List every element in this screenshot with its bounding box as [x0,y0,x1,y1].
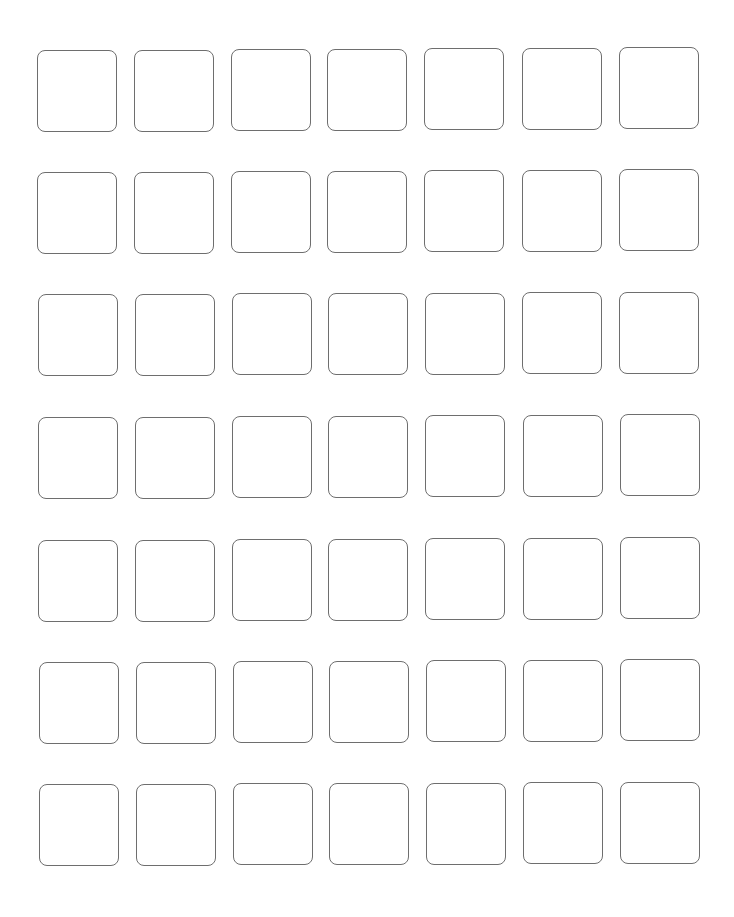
grid-cell-r1-c7 [619,47,699,129]
grid-cell-r2-c7 [619,169,699,251]
grid-cell-r6-c1 [39,662,119,744]
grid-cell-r4-c7 [620,414,700,496]
grid-cell-r7-c2 [136,784,216,866]
grid-cell-r2-c3 [231,171,311,253]
grid-cell-r4-c3 [232,416,312,498]
grid-cell-r4-c2 [135,417,215,499]
grid-cell-r7-c5 [426,783,506,865]
grid-cell-r4-c4 [328,416,408,498]
grid-cell-r6-c7 [620,659,700,741]
grid-cell-r5-c3 [232,539,312,621]
grid-cell-r5-c7 [620,537,700,619]
grid-cell-r6-c6 [523,660,603,742]
grid-cell-r7-c1 [39,784,119,866]
empty-box-grid [0,0,734,917]
grid-cell-r1-c1 [37,50,117,132]
grid-cell-r3-c1 [38,294,118,376]
grid-cell-r3-c5 [425,293,505,375]
grid-cell-r3-c4 [328,293,408,375]
grid-cell-r4-c1 [38,417,118,499]
grid-cell-r2-c4 [327,171,407,253]
grid-cell-r6-c5 [426,660,506,742]
grid-cell-r5-c4 [328,539,408,621]
grid-cell-r6-c3 [233,661,313,743]
grid-cell-r7-c6 [523,782,603,864]
grid-cell-r3-c3 [232,293,312,375]
grid-cell-r1-c6 [522,48,602,130]
grid-cell-r2-c5 [424,170,504,252]
grid-cell-r1-c4 [327,49,407,131]
grid-cell-r2-c2 [134,172,214,254]
grid-cell-r4-c6 [523,415,603,497]
grid-cell-r5-c5 [425,538,505,620]
grid-cell-r5-c1 [38,540,118,622]
grid-cell-r1-c2 [134,50,214,132]
grid-cell-r7-c4 [329,783,409,865]
grid-cell-r3-c2 [135,294,215,376]
grid-cell-r4-c5 [425,415,505,497]
grid-cell-r1-c5 [424,48,504,130]
grid-cell-r1-c3 [231,49,311,131]
grid-cell-r5-c2 [135,540,215,622]
grid-cell-r6-c2 [136,662,216,744]
grid-cell-r2-c6 [522,170,602,252]
grid-cell-r7-c3 [233,783,313,865]
grid-cell-r6-c4 [329,661,409,743]
grid-cell-r3-c6 [522,292,602,374]
grid-cell-r2-c1 [37,172,117,254]
grid-cell-r7-c7 [620,782,700,864]
grid-cell-r5-c6 [523,538,603,620]
grid-cell-r3-c7 [619,292,699,374]
